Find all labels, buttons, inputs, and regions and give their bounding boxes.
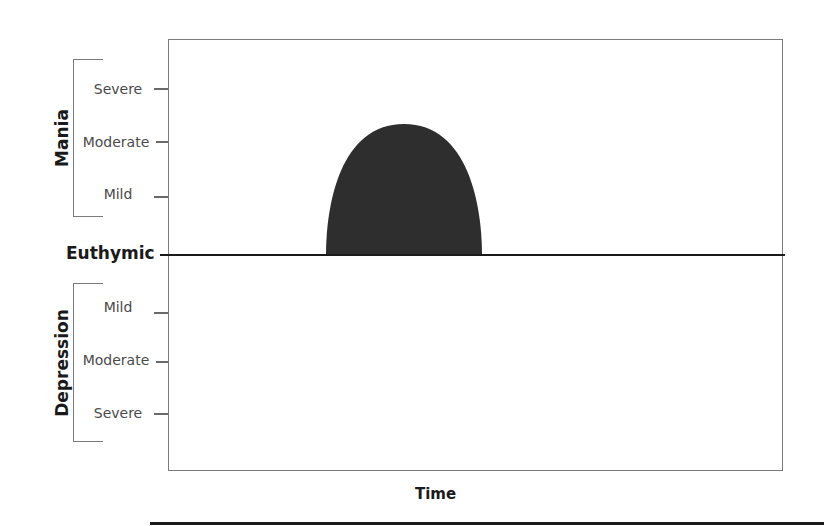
mania-moderate-label: Moderate xyxy=(78,134,154,150)
time-axis-label: Time xyxy=(415,485,456,503)
mania-severe-tick xyxy=(154,88,168,90)
bottom-rule xyxy=(150,522,824,525)
mania-severe-label: Severe xyxy=(80,81,156,97)
depression-mild-label: Mild xyxy=(80,299,156,315)
mania-mild-label: Mild xyxy=(80,186,156,202)
depression-severe-tick xyxy=(154,413,168,415)
mania-label: Mania xyxy=(52,98,72,178)
depression-moderate-label: Moderate xyxy=(78,352,154,368)
mania-moderate-tick xyxy=(156,141,168,143)
manic-episode-shape xyxy=(0,0,828,526)
depression-mild-tick xyxy=(154,312,168,314)
depression-label: Depression xyxy=(52,303,72,423)
euthymic-baseline xyxy=(160,254,785,256)
depression-moderate-tick xyxy=(156,361,168,363)
euthymic-label: Euthymic xyxy=(66,243,155,263)
mania-mild-tick xyxy=(154,196,168,198)
depression-severe-label: Severe xyxy=(80,405,156,421)
